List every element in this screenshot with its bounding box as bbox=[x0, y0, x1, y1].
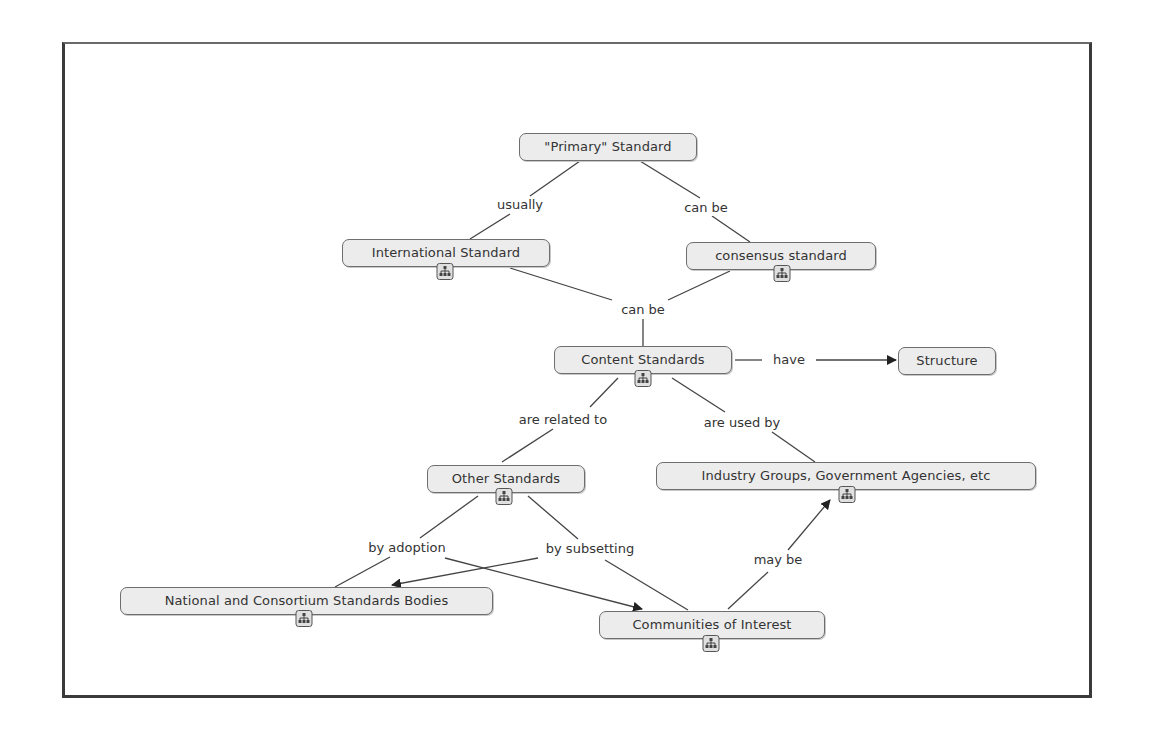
edge-canbe-consensus bbox=[712, 216, 750, 242]
link-label-are-used-by: are used by bbox=[702, 415, 783, 431]
concept-node-primary-standard[interactable]: "Primary" Standard bbox=[519, 133, 697, 161]
hierarchy-icon[interactable] bbox=[839, 486, 856, 503]
edge-usually-international bbox=[470, 214, 510, 239]
hierarchy-icon[interactable] bbox=[774, 265, 791, 282]
link-label-can-be: can be bbox=[682, 200, 730, 216]
link-label-have: have bbox=[771, 352, 807, 368]
edge-other-adoption bbox=[420, 496, 478, 538]
link-label-by-subsetting: by subsetting bbox=[544, 541, 636, 557]
edge-primary-usually bbox=[530, 161, 580, 196]
edge-adoption-national bbox=[335, 557, 390, 587]
edge-other-subsetting bbox=[528, 496, 578, 539]
hierarchy-icon[interactable] bbox=[703, 635, 720, 652]
hierarchy-icon[interactable] bbox=[496, 488, 513, 505]
edge-content-related bbox=[590, 378, 618, 407]
edge-related-other bbox=[502, 429, 553, 462]
edge-primary-canbe bbox=[640, 161, 700, 198]
edge-maybe-industry bbox=[788, 500, 830, 550]
hierarchy-icon[interactable] bbox=[437, 263, 454, 280]
edge-usedby-industry bbox=[772, 432, 815, 462]
link-label-can-be: can be bbox=[619, 302, 667, 318]
concept-node-structure[interactable]: Structure bbox=[898, 347, 996, 375]
link-label-may-be: may be bbox=[752, 552, 805, 568]
edge-consensus-canbe bbox=[668, 271, 730, 300]
link-label-are-related-to: are related to bbox=[517, 412, 609, 428]
edge-international-canbe bbox=[510, 268, 612, 300]
link-label-by-adoption: by adoption bbox=[366, 540, 447, 556]
hierarchy-icon[interactable] bbox=[296, 610, 313, 627]
hierarchy-icon[interactable] bbox=[635, 370, 652, 387]
edge-communities-maybe bbox=[728, 572, 768, 609]
edge-subsetting-national bbox=[392, 558, 538, 585]
edge-content-usedby bbox=[672, 378, 725, 412]
link-label-usually: usually bbox=[495, 197, 545, 213]
